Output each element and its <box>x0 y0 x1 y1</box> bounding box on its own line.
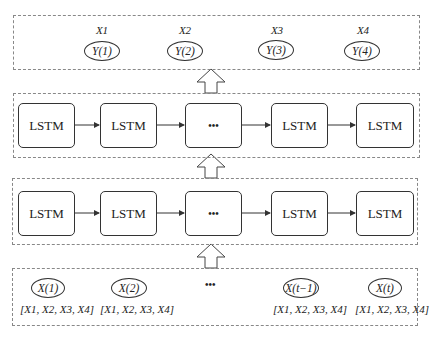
lstm-cell: LSTM <box>271 103 328 148</box>
lstm-cell: LSTM <box>100 103 157 148</box>
input-layer-box <box>12 268 418 326</box>
input-vector: [X1, X2, X3, X4] <box>20 303 80 315</box>
lstm-cell: LSTM <box>18 191 75 236</box>
input-node-x1: X(1) <box>31 278 65 298</box>
input-node-xt-1: X(t−1) <box>283 278 319 298</box>
lstm-cell: LSTM <box>18 103 75 148</box>
lstm-cell-ellipsis: ••• <box>185 103 242 148</box>
input-vector: [X1, X2, X3, X4] <box>355 303 415 315</box>
output-label-x3: X3 <box>270 24 284 36</box>
lstm-cell: LSTM <box>271 191 328 236</box>
input-node-xt: X(t) <box>368 278 402 298</box>
output-label-x4: X4 <box>356 24 370 36</box>
input-vector: [X1, X2, X3, X4] <box>273 303 333 315</box>
output-label-x2: X2 <box>178 24 192 36</box>
input-ellipsis: ••• <box>205 279 216 290</box>
output-node-y1: Y(1) <box>84 41 120 61</box>
output-node-y4: Y(4) <box>344 41 380 61</box>
lstm-cell-ellipsis: ••• <box>185 191 242 236</box>
input-vector: [X1, X2, X3, X4] <box>100 303 160 315</box>
lstm-cell: LSTM <box>356 103 414 148</box>
input-node-x2: X(2) <box>111 278 147 298</box>
lstm-cell: LSTM <box>100 191 157 236</box>
lstm-cell: LSTM <box>356 191 414 236</box>
output-node-y3: Y(3) <box>258 40 294 60</box>
output-label-x1: X1 <box>95 24 109 36</box>
output-node-y2: Y(2) <box>167 41 203 61</box>
